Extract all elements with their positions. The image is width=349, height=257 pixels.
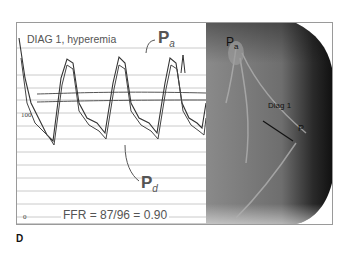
pd-label: Pd	[141, 173, 158, 194]
y-tick-100: 100	[21, 111, 32, 119]
angiogram-xray	[206, 23, 332, 224]
pressure-tracing-chart: DIAG 1, hyperemia Pa Pd 100 0 FFR = 87/9…	[17, 23, 206, 224]
angio-pa-label: Pa	[226, 35, 238, 51]
pressure-waveforms	[17, 23, 206, 224]
angiogram-image: Pa Diag 1 P	[206, 23, 332, 224]
chart-title: DIAG 1, hyperemia	[27, 33, 116, 45]
pa-label: Pa	[158, 28, 175, 49]
figure-panel: DIAG 1, hyperemia Pa Pd 100 0 FFR = 87/9…	[16, 22, 333, 225]
y-tick-0: 0	[23, 213, 27, 221]
figure-label: D	[16, 233, 23, 244]
angio-p-label: P	[298, 123, 304, 133]
vessel-label: Diag 1	[268, 101, 291, 110]
ffr-annotation: FFR = 87/96 = 0.90	[61, 208, 169, 222]
